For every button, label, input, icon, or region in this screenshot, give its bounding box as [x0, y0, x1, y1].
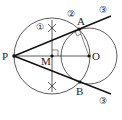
point-A [77, 27, 80, 30]
point-B [78, 80, 81, 83]
label-O: O [92, 50, 100, 62]
step-label-1: ① [36, 22, 44, 32]
step-label-3-top: ③ [99, 5, 107, 15]
point-P [12, 54, 16, 58]
step-label-3-bottom: ③ [99, 96, 107, 106]
geometry-diagram: P M O A B ① ② ③ ③ [0, 0, 122, 120]
point-M [50, 54, 53, 57]
label-B: B [76, 85, 83, 97]
label-A: A [77, 15, 85, 27]
step-label-2: ② [67, 9, 75, 19]
label-M: M [41, 55, 51, 67]
point-O [87, 54, 90, 57]
label-P: P [2, 50, 8, 62]
